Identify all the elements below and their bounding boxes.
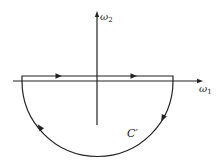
contour-arrow-icon <box>131 73 138 79</box>
contour-arrow-icon <box>56 73 63 79</box>
vertical-axis <box>95 11 99 125</box>
contour-diagram: ω2 ω1 C′ <box>0 0 221 161</box>
horizontal-axis <box>13 79 203 83</box>
horizontal-axis-label: ω1 <box>199 83 212 96</box>
contour-label: C′ <box>127 127 138 140</box>
vertical-axis-arrow-icon <box>95 11 99 17</box>
vertical-axis-label: ω2 <box>100 11 113 24</box>
contour-arrow-icon <box>35 123 44 132</box>
